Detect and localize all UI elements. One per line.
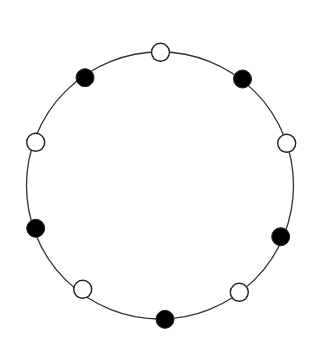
white-bead-top [152, 43, 170, 61]
white-bead-right [278, 134, 296, 152]
white-bead-bottom-right [230, 283, 248, 301]
black-bead-top-left [76, 69, 94, 87]
black-bead-lower-right [272, 228, 290, 246]
black-bead-bottom [156, 310, 174, 328]
black-bead-top-right [234, 70, 252, 88]
white-bead-left [27, 133, 45, 151]
white-bead-bottom-left [74, 280, 92, 298]
necklace-diagram [0, 0, 320, 348]
black-bead-lower-left [27, 219, 45, 237]
